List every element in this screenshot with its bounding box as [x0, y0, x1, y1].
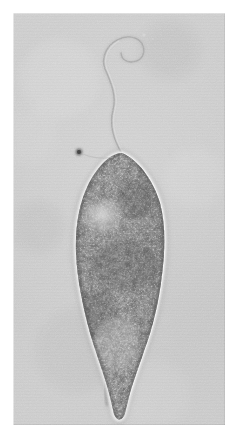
caption-area: [0, 425, 238, 444]
specimen-layer: [13, 13, 225, 425]
photo-plate: [13, 13, 225, 425]
specimen-illustration: [13, 13, 225, 425]
flagellum: [104, 33, 154, 154]
photomicrograph-page: [0, 0, 238, 444]
